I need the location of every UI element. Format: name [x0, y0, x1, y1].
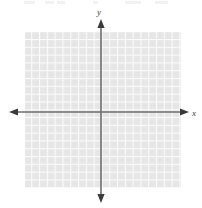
- y-axis-top-arrowhead: [97, 19, 104, 28]
- x-axis-left-arrowhead: [9, 108, 18, 115]
- y-axis-label: y: [96, 7, 101, 17]
- plot-canvas: x y: [0, 0, 202, 208]
- x-axis-label: x: [191, 108, 196, 118]
- x-axis-right-arrowhead: [180, 108, 189, 115]
- y-axis-bottom-arrowhead: [97, 194, 104, 203]
- grid-area: [25, 32, 181, 188]
- coordinate-plane-figure: x y: [0, 0, 202, 208]
